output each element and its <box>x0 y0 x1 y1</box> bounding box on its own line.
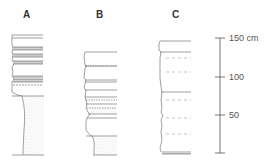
column-c-label: C <box>172 9 179 20</box>
scale-label-100: 100 <box>229 72 244 82</box>
depth-scale-bar <box>215 38 225 153</box>
column-b <box>84 52 117 155</box>
column-a-label: A <box>23 9 30 20</box>
column-b-label: B <box>96 9 103 20</box>
stratigraphic-columns-diagram: A B C <box>0 0 272 163</box>
column-c <box>159 41 191 154</box>
column-a <box>12 35 44 155</box>
scale-label-150: 150 cm <box>229 33 259 43</box>
scale-label-50: 50 <box>229 110 239 120</box>
